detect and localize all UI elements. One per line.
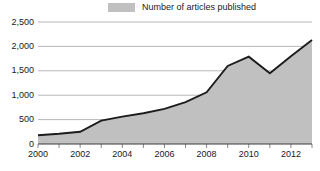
x-axis-tick-label: 2012 xyxy=(275,150,307,159)
y-axis-tick-label: 1,500 xyxy=(0,66,34,75)
x-axis-tick-label: 2006 xyxy=(148,150,180,159)
y-axis-tick-label: 1,000 xyxy=(0,91,34,100)
x-axis-tickmarks xyxy=(38,144,312,148)
area-chart: Number of articles published 05001,0001,… xyxy=(0,0,320,171)
y-axis-tick-label: 500 xyxy=(0,115,34,124)
chart-legend: Number of articles published xyxy=(108,3,256,12)
y-axis-tick-label: 2,500 xyxy=(0,18,34,27)
x-axis-tick-label: 2004 xyxy=(106,150,138,159)
plot-area xyxy=(38,22,312,144)
x-axis-tick-label: 2010 xyxy=(233,150,265,159)
series-area-fill xyxy=(38,40,312,144)
x-axis-tick-label: 2002 xyxy=(64,150,96,159)
legend-label: Number of articles published xyxy=(142,3,256,12)
y-axis-tick-label: 2,000 xyxy=(0,42,34,51)
plot-svg xyxy=(38,22,312,144)
legend-color-swatch xyxy=(108,3,135,12)
y-axis-tick-label: 0 xyxy=(0,140,34,149)
x-axis-tick-label: 2000 xyxy=(22,150,54,159)
x-axis-tick-label: 2008 xyxy=(191,150,223,159)
